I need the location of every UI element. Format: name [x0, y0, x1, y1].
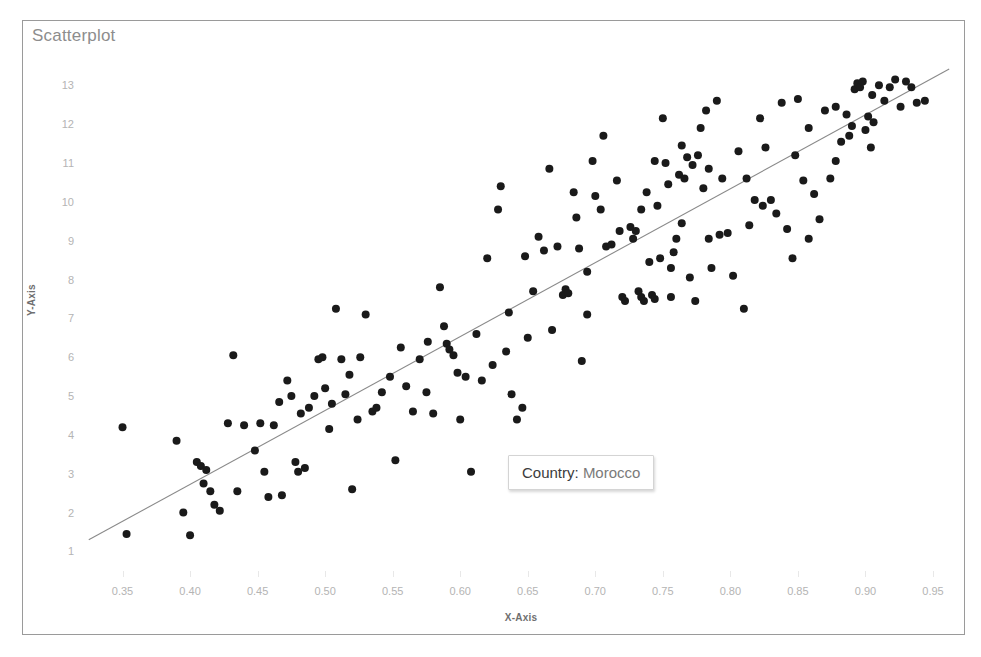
data-point[interactable]	[583, 268, 591, 276]
data-point[interactable]	[518, 404, 526, 412]
data-point[interactable]	[397, 344, 405, 352]
data-point[interactable]	[680, 175, 688, 183]
data-point[interactable]	[608, 241, 616, 249]
data-point[interactable]	[664, 180, 672, 188]
data-point[interactable]	[287, 392, 295, 400]
data-point[interactable]	[251, 446, 259, 454]
data-point[interactable]	[173, 437, 181, 445]
data-point[interactable]	[321, 384, 329, 392]
data-point[interactable]	[521, 252, 529, 260]
data-point[interactable]	[716, 231, 724, 239]
data-point[interactable]	[206, 487, 214, 495]
data-point[interactable]	[913, 99, 921, 107]
data-point[interactable]	[283, 377, 291, 385]
data-point[interactable]	[868, 91, 876, 99]
data-point[interactable]	[478, 377, 486, 385]
data-point[interactable]	[583, 311, 591, 319]
data-point[interactable]	[294, 468, 302, 476]
data-point[interactable]	[734, 147, 742, 155]
data-point[interactable]	[310, 392, 318, 400]
data-point[interactable]	[683, 153, 691, 161]
data-point[interactable]	[880, 97, 888, 105]
data-point[interactable]	[656, 254, 664, 262]
data-point[interactable]	[278, 491, 286, 499]
data-point[interactable]	[713, 97, 721, 105]
data-point[interactable]	[297, 410, 305, 418]
data-point[interactable]	[678, 142, 686, 150]
data-point[interactable]	[524, 334, 532, 342]
data-point[interactable]	[348, 485, 356, 493]
data-point[interactable]	[772, 210, 780, 218]
data-point[interactable]	[467, 468, 475, 476]
data-point[interactable]	[870, 118, 878, 126]
data-point[interactable]	[767, 196, 775, 204]
data-point[interactable]	[328, 400, 336, 408]
data-point[interactable]	[832, 157, 840, 165]
data-point[interactable]	[845, 132, 853, 140]
data-point[interactable]	[667, 293, 675, 301]
data-point[interactable]	[791, 151, 799, 159]
data-point[interactable]	[707, 264, 715, 272]
data-point[interactable]	[643, 188, 651, 196]
data-point[interactable]	[653, 202, 661, 210]
data-point[interactable]	[391, 456, 399, 464]
data-point[interactable]	[462, 373, 470, 381]
data-point[interactable]	[691, 297, 699, 305]
data-point[interactable]	[456, 415, 464, 423]
data-point[interactable]	[921, 97, 929, 105]
data-point[interactable]	[575, 244, 583, 252]
data-point[interactable]	[662, 159, 670, 167]
data-point[interactable]	[667, 264, 675, 272]
data-point[interactable]	[799, 176, 807, 184]
data-point[interactable]	[651, 157, 659, 165]
data-point[interactable]	[759, 202, 767, 210]
data-point[interactable]	[429, 410, 437, 418]
data-point[interactable]	[378, 388, 386, 396]
data-point[interactable]	[718, 175, 726, 183]
data-point[interactable]	[572, 213, 580, 221]
data-point[interactable]	[843, 110, 851, 118]
data-point[interactable]	[497, 182, 505, 190]
data-point[interactable]	[489, 361, 497, 369]
data-point[interactable]	[291, 458, 299, 466]
data-point[interactable]	[621, 297, 629, 305]
data-point[interactable]	[264, 493, 272, 501]
data-point[interactable]	[449, 351, 457, 359]
data-point[interactable]	[678, 219, 686, 227]
data-point[interactable]	[256, 419, 264, 427]
data-point[interactable]	[832, 103, 840, 111]
data-point[interactable]	[548, 326, 556, 334]
data-point[interactable]	[613, 176, 621, 184]
data-point[interactable]	[591, 192, 599, 200]
data-point[interactable]	[233, 487, 241, 495]
data-point[interactable]	[362, 311, 370, 319]
data-point[interactable]	[597, 206, 605, 214]
data-point[interactable]	[325, 425, 333, 433]
data-point[interactable]	[179, 509, 187, 517]
data-point[interactable]	[826, 175, 834, 183]
data-point[interactable]	[805, 235, 813, 243]
data-point[interactable]	[424, 338, 432, 346]
data-point[interactable]	[260, 468, 268, 476]
data-point[interactable]	[229, 351, 237, 359]
data-point[interactable]	[616, 227, 624, 235]
data-point[interactable]	[645, 258, 653, 266]
data-point[interactable]	[275, 398, 283, 406]
data-point[interactable]	[508, 390, 516, 398]
data-point[interactable]	[729, 272, 737, 280]
data-point[interactable]	[897, 103, 905, 111]
data-point[interactable]	[789, 254, 797, 262]
data-point[interactable]	[545, 165, 553, 173]
data-point[interactable]	[751, 196, 759, 204]
data-point[interactable]	[783, 225, 791, 233]
data-point[interactable]	[240, 421, 248, 429]
data-point[interactable]	[699, 184, 707, 192]
data-point[interactable]	[337, 355, 345, 363]
data-point[interactable]	[553, 243, 561, 251]
data-point[interactable]	[440, 322, 448, 330]
data-point[interactable]	[502, 347, 510, 355]
data-point[interactable]	[409, 408, 417, 416]
data-point[interactable]	[756, 114, 764, 122]
data-point[interactable]	[861, 126, 869, 134]
data-point[interactable]	[705, 235, 713, 243]
